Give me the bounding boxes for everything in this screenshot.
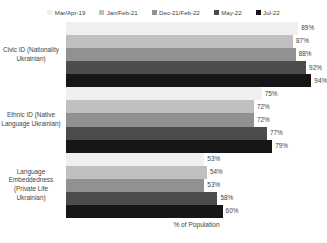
bar-row: 53% (66, 179, 327, 192)
bar-stack: 89% 87% 88% 92% 94% (66, 22, 327, 87)
bar-value-label: 60% (223, 208, 239, 214)
bar[interactable] (66, 140, 272, 153)
x-axis-title: % of Population (66, 222, 327, 229)
legend-item-4[interactable]: Jul-22 (256, 10, 280, 16)
bar-value-label: 58% (217, 195, 233, 201)
bar-row: 92% (66, 61, 327, 74)
legend-label: Jul-22 (263, 10, 280, 16)
legend-swatch-icon (152, 10, 157, 15)
bar[interactable] (66, 113, 254, 126)
category-label: Language Embeddedness (Private Life Ukra… (0, 168, 66, 203)
bar-value-label: 94% (311, 78, 327, 84)
bar-row: 53% (66, 153, 327, 166)
legend-item-3[interactable]: May-22 (214, 10, 242, 16)
bar-value-label: 75% (262, 91, 278, 97)
bar-row: 72% (66, 100, 327, 113)
legend-label: Dec-21/Feb-22 (159, 10, 200, 16)
bar-row: 94% (66, 74, 327, 87)
bar[interactable] (66, 153, 204, 166)
legend-swatch-icon (99, 10, 104, 15)
bar-value-label: 92% (306, 65, 322, 71)
bar-row: 88% (66, 48, 327, 61)
chart-legend: Mar/Apr-19 Jan/Feb-21 Dec-21/Feb-22 May-… (0, 6, 327, 20)
bar[interactable] (66, 35, 293, 48)
bar-stack: 75% 72% 72% 77% 79% (66, 87, 327, 152)
legend-item-0[interactable]: Mar/Apr-19 (47, 10, 85, 16)
bar[interactable] (66, 87, 262, 100)
bar[interactable] (66, 22, 298, 35)
bar-row: 72% (66, 113, 327, 126)
bar-stack: 53% 54% 53% 58% 60% (66, 153, 327, 218)
bar-group: Ethnic ID (Native Language Ukrainian) 75… (0, 87, 327, 152)
bar-row: 77% (66, 127, 327, 140)
bar-row: 75% (66, 87, 327, 100)
bar[interactable] (66, 74, 311, 87)
bar[interactable] (66, 100, 254, 113)
bar-chart: Mar/Apr-19 Jan/Feb-21 Dec-21/Feb-22 May-… (0, 0, 327, 243)
legend-item-1[interactable]: Jan/Feb-21 (99, 10, 137, 16)
bar-row: 89% (66, 22, 327, 35)
bar-row: 54% (66, 166, 327, 179)
bar-value-label: 77% (267, 130, 283, 136)
bar[interactable] (66, 61, 306, 74)
bar-value-label: 54% (207, 169, 223, 175)
legend-label: May-22 (221, 10, 241, 16)
bar-group: Language Embeddedness (Private Life Ukra… (0, 153, 327, 218)
bar[interactable] (66, 127, 267, 140)
bar-group: Civic ID (Nationality Ukrainian) 89% 87%… (0, 22, 327, 87)
legend-swatch-icon (214, 10, 219, 15)
plot-area: Civic ID (Nationality Ukrainian) 89% 87%… (0, 22, 327, 218)
bar-row: 60% (66, 205, 327, 218)
bar-value-label: 72% (254, 104, 270, 110)
bar-value-label: 53% (204, 182, 220, 188)
bar-value-label: 53% (204, 156, 220, 162)
bar-value-label: 89% (298, 25, 314, 31)
bar[interactable] (66, 48, 296, 61)
bar-value-label: 88% (296, 51, 312, 57)
bar[interactable] (66, 166, 207, 179)
legend-item-2[interactable]: Dec-21/Feb-22 (152, 10, 200, 16)
bar-value-label: 72% (254, 117, 270, 123)
bar-row: 87% (66, 35, 327, 48)
legend-label: Mar/Apr-19 (55, 10, 85, 16)
bar-row: 58% (66, 192, 327, 205)
bar[interactable] (66, 192, 217, 205)
bar-value-label: 87% (293, 38, 309, 44)
bar-row: 79% (66, 140, 327, 153)
legend-swatch-icon (47, 10, 52, 15)
bar[interactable] (66, 179, 204, 192)
category-label: Ethnic ID (Native Language Ukrainian) (0, 111, 66, 129)
category-label: Civic ID (Nationality Ukrainian) (0, 46, 66, 64)
bar-value-label: 79% (272, 143, 288, 149)
bar[interactable] (66, 205, 223, 218)
legend-label: Jan/Feb-21 (107, 10, 138, 16)
legend-swatch-icon (256, 10, 261, 15)
